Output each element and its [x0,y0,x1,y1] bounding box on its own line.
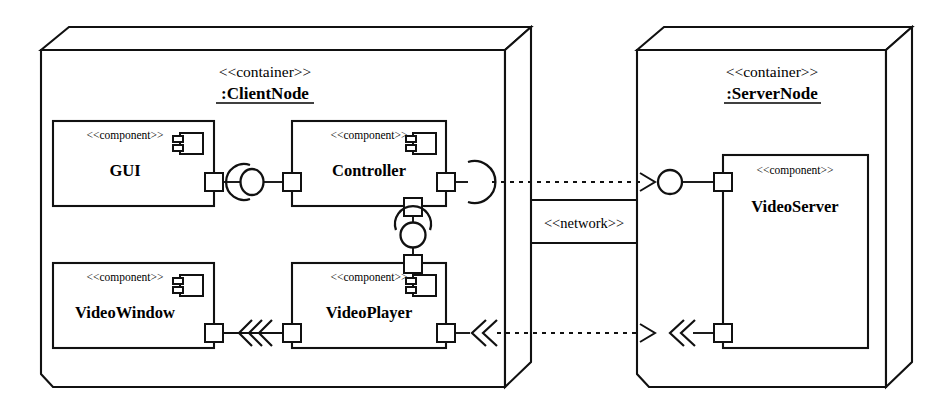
provided-interface-ball-icon [401,223,426,248]
uml-diagram-canvas: <<container>> :ClientNode <<container>> … [0,0,945,407]
videoserver-stereotype: <<component>> [756,164,833,177]
provided-interface-ball-icon [241,169,264,195]
controller-name: Controller [332,161,406,180]
component-videoserver[interactable]: <<component>> VideoServer [714,155,868,348]
videoserver-port-lower-left[interactable] [714,324,732,342]
videoplayer-port-left[interactable] [283,324,301,342]
videoplayer-port-right[interactable] [437,324,455,342]
provided-interface-ball-icon [658,170,682,194]
controller-stereotype: <<component>> [330,129,407,142]
videoserver-name: VideoServer [751,197,838,216]
videowindow-port-right[interactable] [205,324,223,342]
client-node-name: :ClientNode [221,84,309,103]
component-controller[interactable]: <<component>> Controller [283,121,455,216]
videoplayer-port-top[interactable] [404,255,422,273]
network-path-label: <<network>> [544,215,624,231]
videowindow-name: VideoWindow [75,303,175,322]
network-communication-path[interactable]: <<network>> [531,200,637,243]
videoserver-box [723,155,868,348]
component-videowindow[interactable]: <<component>> VideoWindow [53,263,223,348]
videoserver-port-upper-left[interactable] [714,173,732,191]
gui-name: GUI [109,161,140,180]
component-videoplayer[interactable]: <<component>> VideoPlayer [283,255,455,348]
controller-port-right[interactable] [437,173,455,191]
server-node-right-face [886,27,912,387]
videowindow-stereotype: <<component>> [86,271,163,284]
component-gui[interactable]: <<component>> GUI [53,121,223,206]
server-node-name: :ServerNode [726,84,818,103]
client-node-stereotype: <<container>> [219,63,312,80]
server-node-stereotype: <<container>> [726,63,819,80]
videoplayer-name: VideoPlayer [326,303,412,322]
controller-port-left[interactable] [283,173,301,191]
client-node-top-face [41,27,531,50]
gui-port-right[interactable] [205,173,223,191]
gui-stereotype: <<component>> [86,129,163,142]
videoplayer-stereotype: <<component>> [330,271,407,284]
server-node-top-face [637,27,912,50]
